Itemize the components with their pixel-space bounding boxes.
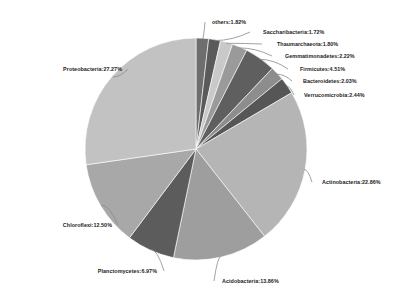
leader-line-others — [202, 22, 205, 39]
slice-label-saccharibacteria: Saccharibacteria:1.72% — [263, 29, 324, 35]
pie-chart-figure: others:1.82%Saccharibacteria:1.72%Thauma… — [0, 0, 418, 305]
leader-line-acidobacteria — [214, 256, 221, 281]
slice-label-planctomycetes: Planctomycetes:6.97% — [98, 268, 157, 274]
pie-chart-canvas: others:1.82%Saccharibacteria:1.72%Thauma… — [0, 0, 418, 305]
slice-label-gemmatimonadetes: Gemmatimonadetes:2.22% — [285, 53, 355, 59]
leader-line-saccharibacteria — [214, 32, 250, 41]
slice-label-bacteroidetes: Bacteroidetes:2.03% — [303, 78, 357, 84]
slice-label-actinobacteria: Actinobacteria:22.86% — [322, 179, 381, 185]
slice-label-thaumarchaeota: Thaumarchaeota:1.80% — [277, 41, 338, 47]
slice-label-proteobacteria: Proteobacteria:27.27% — [63, 66, 122, 72]
slice-label-acidobacteria: Acidobacteria:13.86% — [222, 278, 279, 284]
slice-label-others: others:1.82% — [212, 19, 246, 25]
leader-line-actinobacteria — [304, 169, 312, 182]
slice-label-verrucomicrobia: Verrucomicrobia:2.44% — [304, 92, 365, 98]
pie-slice-proteobacteria[interactable] — [85, 38, 196, 165]
slice-label-firmicutes: Firmicutes:4.51% — [300, 66, 345, 72]
slice-label-chloroflexi: Chloroflexi:12.50% — [63, 222, 112, 228]
